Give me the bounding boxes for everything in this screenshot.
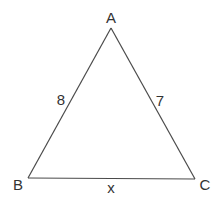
side-ac bbox=[111, 28, 195, 179]
vertex-label-c: C bbox=[200, 176, 211, 193]
side-ab bbox=[28, 28, 111, 178]
vertex-label-a: A bbox=[106, 9, 116, 26]
side-label-bc: x bbox=[107, 179, 115, 196]
side-label-ab: 8 bbox=[57, 91, 65, 108]
side-label-ac: 7 bbox=[156, 92, 164, 109]
triangle-diagram: A B C 8 7 x bbox=[0, 0, 217, 203]
vertex-label-b: B bbox=[13, 176, 23, 193]
